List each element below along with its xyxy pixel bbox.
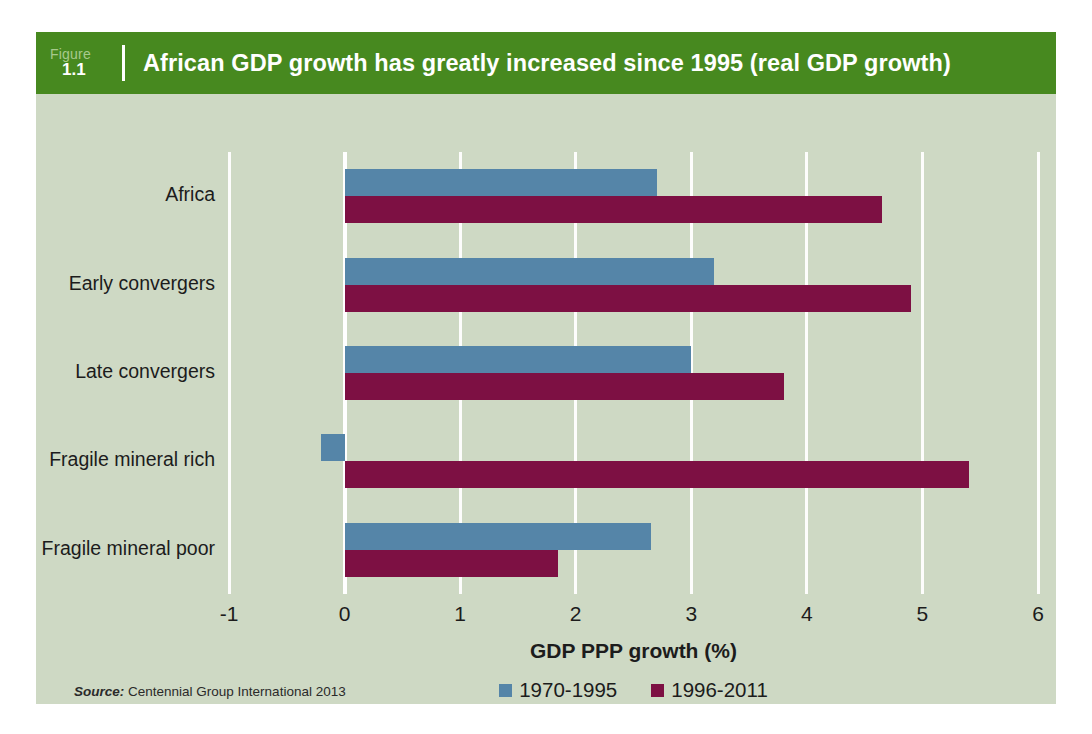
chart-body: AfricaEarly convergersLate convergersFra… <box>36 94 1056 704</box>
figure-number: 1.1 <box>50 61 86 79</box>
tick-label: 3 <box>661 602 721 626</box>
category-label: Early convergers <box>0 272 215 295</box>
bar <box>345 346 692 373</box>
legend-swatch-icon <box>499 684 512 697</box>
header-divider <box>122 45 125 81</box>
x-axis-title: GDP PPP growth (%) <box>229 639 1038 663</box>
category-label: Late convergers <box>0 360 215 383</box>
category-label: Fragile mineral poor <box>0 537 215 560</box>
source-label: Source: <box>74 684 124 699</box>
category-label: Fragile mineral rich <box>0 448 215 471</box>
legend-swatch-icon <box>651 684 664 697</box>
bar <box>345 169 657 196</box>
tick-label: 5 <box>892 602 952 626</box>
legend-label: 1970-1995 <box>519 678 617 702</box>
bar <box>345 258 715 285</box>
source-text: Centennial Group International 2013 <box>128 684 346 699</box>
bar <box>345 373 784 400</box>
bar <box>321 434 344 461</box>
legend-item[interactable]: 1996-2011 <box>651 678 768 702</box>
tick-label: -1 <box>199 602 259 626</box>
bar <box>345 523 651 550</box>
figure-label-word: Figure <box>50 47 91 62</box>
bar-group <box>229 523 1038 577</box>
bar <box>345 550 559 577</box>
tick-label: 2 <box>546 602 606 626</box>
bar <box>345 461 969 488</box>
legend-label: 1996-2011 <box>671 678 768 702</box>
bar-group <box>229 434 1038 488</box>
chart-legend: 1970-19951996-2011 <box>229 678 1038 702</box>
bar-group <box>229 169 1038 223</box>
figure-number-block: Figure 1.1 <box>36 47 122 80</box>
category-label: Africa <box>0 183 215 206</box>
bar-group <box>229 258 1038 312</box>
tick-label: 0 <box>315 602 375 626</box>
bar <box>345 196 882 223</box>
category-axis-labels: AfricaEarly convergersLate convergersFra… <box>36 152 221 594</box>
figure-header: Figure 1.1 African GDP growth has greatl… <box>36 32 1056 94</box>
figure-title: African GDP growth has greatly increased… <box>143 50 951 77</box>
legend-item[interactable]: 1970-1995 <box>499 678 617 702</box>
plot-area <box>229 152 1038 594</box>
tick-label: 6 <box>1008 602 1068 626</box>
bar-group <box>229 346 1038 400</box>
figure-card: Figure 1.1 African GDP growth has greatl… <box>36 32 1056 704</box>
bar <box>345 285 911 312</box>
tick-label: 1 <box>430 602 490 626</box>
tick-label: 4 <box>777 602 837 626</box>
source-note: Source: Centennial Group International 2… <box>74 684 346 699</box>
value-axis-tick-labels: -10123456 <box>229 602 1038 632</box>
